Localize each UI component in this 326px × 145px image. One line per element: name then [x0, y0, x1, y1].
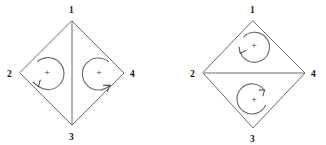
right-vertex-label-2: 2 — [190, 69, 195, 79]
left-vertex-label-4: 4 — [130, 69, 135, 79]
top-arc-rotation-marker: + — [239, 32, 269, 62]
left-quadrilateral: + + 1 2 4 3 — [7, 5, 135, 142]
left-vertex-label-3: 3 — [69, 132, 74, 142]
bottom-arc-plus-sign: + — [251, 94, 257, 105]
top-arc-plus-sign: + — [251, 40, 257, 51]
right-arc-plus-sign: + — [96, 67, 102, 78]
geometry-figure: + + 1 2 4 3 + — [0, 0, 326, 145]
left-vertex-label-1: 1 — [69, 5, 74, 15]
right-quadrilateral-outline — [203, 21, 305, 128]
bottom-arc-rotation-marker: + — [237, 84, 266, 114]
right-vertex-label-3: 3 — [250, 134, 255, 144]
right-vertex-label-1: 1 — [250, 5, 255, 15]
left-arc-plus-sign: + — [44, 67, 50, 78]
left-arc-arrowhead — [33, 80, 40, 87]
left-arc-rotation-marker: + — [33, 58, 64, 90]
figure-canvas: + + 1 2 4 3 + — [0, 0, 326, 145]
bottom-arc-arrowhead — [259, 90, 265, 96]
left-vertex-label-2: 2 — [7, 69, 12, 79]
right-quadrilateral: + + 1 2 4 3 — [190, 5, 316, 144]
top-arc-arrowhead — [239, 47, 246, 53]
right-vertex-label-4: 4 — [311, 69, 316, 79]
right-arc-rotation-marker: + — [82, 58, 110, 91]
left-arc-path — [38, 58, 64, 90]
